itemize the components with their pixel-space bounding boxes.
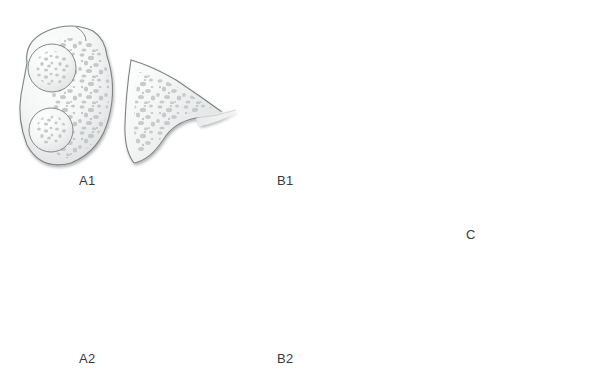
panel-label-a2: A2 (79, 351, 96, 366)
panel-label-b2: B2 (277, 351, 294, 366)
panel-label-c: C (466, 227, 476, 242)
panel-label-a1: A1 (79, 173, 96, 188)
a1-upper-lobe (28, 44, 76, 92)
panel-label-b1: B1 (277, 173, 294, 188)
a1-lower-lobe (29, 108, 73, 152)
